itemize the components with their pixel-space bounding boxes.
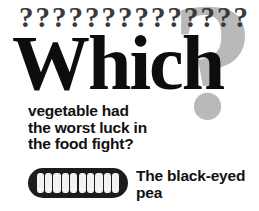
riddle-poster: ? ?????????????? Which vegetable hadthe … xyxy=(0,0,259,211)
pea-pod-shape xyxy=(28,168,128,198)
riddle-answer-text: The black-eyedpea xyxy=(136,168,245,201)
pea-seed xyxy=(87,173,94,193)
pea-seed xyxy=(95,173,102,193)
riddle-question-line: vegetable had xyxy=(28,103,147,120)
riddle-answer-line: pea xyxy=(136,185,245,202)
pea-seed xyxy=(112,173,119,193)
pea-seed xyxy=(104,173,111,193)
question-mark-icon: ? xyxy=(234,4,248,30)
pea-pod-illustration xyxy=(28,168,128,198)
riddle-question-line: the food fight? xyxy=(28,136,147,153)
pea-seed xyxy=(70,173,77,193)
riddle-answer-line: The black-eyed xyxy=(136,168,245,185)
pea-seed xyxy=(53,173,60,193)
riddle-question-text: vegetable hadthe worst luck inthe food f… xyxy=(28,103,147,153)
pea-seed xyxy=(62,173,69,193)
pea-pod-seeds xyxy=(36,173,120,193)
riddle-question-line: the worst luck in xyxy=(28,120,147,137)
page-title: Which xyxy=(12,24,223,102)
pea-seed xyxy=(79,173,86,193)
pea-seed xyxy=(37,173,44,193)
pea-seed xyxy=(45,173,52,193)
